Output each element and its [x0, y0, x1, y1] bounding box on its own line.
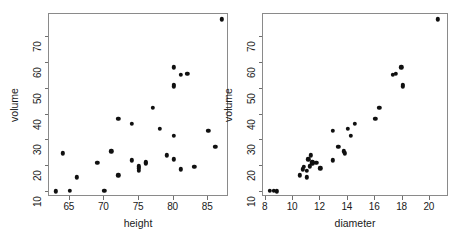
data-point — [213, 145, 217, 149]
data-point — [305, 175, 309, 179]
panel-volume-vs-height: 657075808510203040506070 height volume — [0, 0, 234, 238]
y-axis-title-volume: volume — [8, 88, 20, 122]
x-tick-mark — [292, 196, 293, 200]
data-point — [436, 17, 440, 21]
data-point — [206, 128, 210, 132]
data-point — [192, 165, 196, 169]
x-tick-mark — [265, 196, 266, 200]
data-point — [164, 153, 168, 157]
y-tick-mark — [259, 88, 263, 89]
data-point — [109, 149, 113, 153]
data-point — [336, 145, 340, 149]
y-tick-mark — [259, 114, 263, 115]
data-point — [185, 72, 189, 76]
data-point — [151, 106, 155, 110]
data-point — [314, 161, 318, 165]
data-point — [178, 73, 182, 77]
data-point — [74, 175, 78, 179]
data-point — [377, 106, 381, 110]
y-tick-mark — [259, 191, 263, 192]
data-point — [171, 134, 175, 138]
y-tick-label: 10 — [246, 196, 257, 207]
x-tick-label: 16 — [369, 201, 380, 212]
data-point — [95, 161, 99, 165]
data-point — [309, 153, 313, 157]
y-tick-mark — [259, 62, 263, 63]
y-tick-mark — [45, 36, 49, 37]
y-tick-mark — [45, 62, 49, 63]
data-point — [399, 65, 403, 69]
data-point — [130, 122, 134, 126]
x-tick-mark — [69, 196, 70, 200]
data-point — [331, 128, 335, 132]
x-tick-mark — [103, 196, 104, 200]
x-tick-label: 70 — [98, 201, 109, 212]
data-point — [68, 189, 72, 193]
plot-frame-right — [262, 13, 448, 196]
y-tick-label: 40 — [32, 119, 43, 130]
x-tick-mark — [402, 196, 403, 200]
data-point — [346, 126, 350, 130]
data-point — [220, 17, 224, 21]
x-tick-label: 75 — [133, 201, 144, 212]
y-tick-label: 20 — [32, 170, 43, 181]
data-point — [158, 126, 162, 130]
x-tick-label: 80 — [167, 201, 178, 212]
x-tick-mark — [374, 196, 375, 200]
data-point — [171, 65, 175, 69]
data-point — [343, 151, 347, 155]
data-point — [373, 117, 377, 121]
y-tick-mark — [45, 139, 49, 140]
data-point — [171, 84, 175, 88]
panel-volume-vs-diameter: 810121416182010203040506070 diameter vol… — [234, 0, 468, 238]
x-tick-label: 20 — [423, 201, 434, 212]
y-tick-mark — [45, 88, 49, 89]
y-tick-label: 60 — [32, 67, 43, 78]
y-tick-label: 30 — [32, 145, 43, 156]
plot-frame-left — [48, 13, 228, 196]
x-tick-label: 14 — [341, 201, 352, 212]
y-tick-label: 70 — [246, 42, 257, 53]
data-point — [400, 84, 404, 88]
y-tick-mark — [45, 114, 49, 115]
scatter-plot-figure: 657075808510203040506070 height volume 8… — [0, 0, 469, 238]
y-tick-label: 60 — [246, 67, 257, 78]
y-tick-label: 10 — [32, 196, 43, 207]
x-tick-mark — [429, 196, 430, 200]
y-tick-label: 50 — [32, 93, 43, 104]
x-tick-mark — [173, 196, 174, 200]
data-point — [331, 158, 335, 162]
data-point — [348, 134, 352, 138]
y-tick-label: 30 — [246, 145, 257, 156]
x-tick-label: 18 — [396, 201, 407, 212]
x-tick-mark — [319, 196, 320, 200]
data-point — [393, 72, 397, 76]
y-tick-label: 20 — [246, 170, 257, 181]
x-tick-label: 12 — [314, 201, 325, 212]
data-point — [116, 117, 120, 121]
data-point — [116, 173, 120, 177]
x-tick-mark — [347, 196, 348, 200]
y-tick-label: 70 — [32, 42, 43, 53]
y-tick-mark — [259, 36, 263, 37]
x-tick-label: 10 — [287, 201, 298, 212]
data-point — [298, 173, 302, 177]
x-axis-title-height: height — [124, 217, 153, 229]
data-point — [274, 189, 278, 193]
data-point — [178, 167, 182, 171]
y-tick-mark — [45, 165, 49, 166]
data-point — [61, 151, 65, 155]
x-tick-label: 65 — [63, 201, 74, 212]
x-tick-mark — [138, 196, 139, 200]
plot-area-right — [263, 14, 447, 195]
y-tick-label: 40 — [246, 119, 257, 130]
x-tick-label: 8 — [262, 201, 267, 212]
data-point — [54, 189, 58, 193]
data-point — [352, 122, 356, 126]
y-tick-mark — [259, 139, 263, 140]
x-tick-label: 85 — [202, 201, 213, 212]
y-axis-title-volume: volume — [222, 88, 234, 122]
data-point — [305, 169, 309, 173]
data-point — [318, 166, 322, 170]
data-point — [171, 157, 175, 161]
